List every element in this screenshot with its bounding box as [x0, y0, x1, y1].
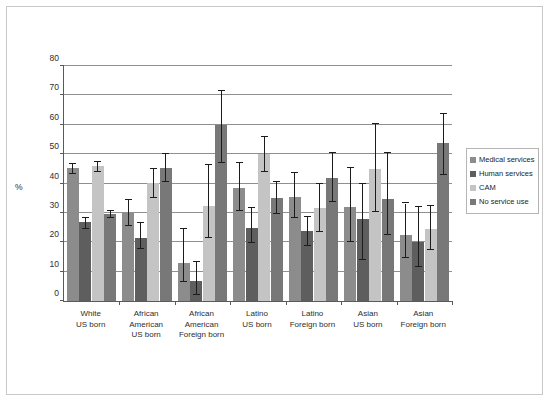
x-tick-mark — [119, 301, 120, 305]
x-tick-label: AsianUS born — [340, 309, 395, 330]
legend-item[interactable]: Medical services — [470, 153, 534, 167]
error-cap-high — [359, 183, 366, 184]
error-bar — [239, 163, 240, 211]
x-tick-label-line: Asian — [396, 309, 451, 320]
error-bar — [276, 182, 277, 214]
error-cap-high — [248, 207, 255, 208]
error-bar — [307, 217, 308, 246]
error-cap-low — [415, 266, 422, 267]
error-cap-high — [193, 261, 200, 262]
error-bar — [350, 168, 351, 242]
error-cap-low — [402, 257, 409, 258]
error-bar — [387, 153, 388, 234]
bar[interactable] — [122, 213, 134, 301]
bar-group — [341, 66, 396, 301]
error-cap-high — [69, 163, 76, 164]
error-cap-low — [316, 231, 323, 232]
error-cap-high — [107, 210, 114, 211]
bar[interactable] — [104, 214, 116, 301]
error-cap-high — [372, 123, 379, 124]
error-cap-high — [125, 199, 132, 200]
legend-item[interactable]: Human services — [470, 167, 534, 181]
legend-item[interactable]: No service use — [470, 195, 534, 209]
error-cap-high — [329, 152, 336, 153]
x-tick-label-line: US born — [229, 320, 284, 331]
x-tick-mark — [397, 301, 398, 305]
x-tick-label-line: Latino — [229, 309, 284, 320]
x-tick-label-line: Foreign born — [174, 330, 229, 341]
x-tick-label-line: US born — [63, 320, 118, 331]
error-bar — [264, 137, 265, 172]
error-cap-low — [236, 210, 243, 211]
error-cap-high — [384, 152, 391, 153]
x-tick-label-line: Foreign born — [396, 320, 451, 331]
bar[interactable] — [258, 154, 270, 301]
bar-group — [175, 66, 230, 301]
error-cap-low — [329, 201, 336, 202]
y-axis-label: % — [15, 182, 23, 192]
legend-item[interactable]: CAM — [470, 181, 534, 195]
error-bar — [153, 169, 154, 198]
chart-figure: % 01020304050607080 Medical servicesHuma… — [6, 6, 543, 395]
error-cap-high — [137, 222, 144, 223]
bar[interactable] — [92, 166, 104, 301]
error-cap-low — [162, 181, 169, 182]
x-tick-label-line: US born — [340, 320, 395, 331]
error-bar — [294, 173, 295, 218]
error-cap-low — [180, 281, 187, 282]
x-tick-mark — [230, 301, 231, 305]
legend-swatch — [470, 199, 476, 205]
legend-swatch — [470, 171, 476, 177]
error-cap-low — [304, 245, 311, 246]
error-bar — [418, 207, 419, 267]
bar[interactable] — [67, 168, 79, 301]
error-cap-low — [218, 162, 225, 163]
error-cap-high — [347, 167, 354, 168]
legend-swatch — [470, 157, 476, 163]
error-cap-high — [273, 181, 280, 182]
error-cap-low — [440, 174, 447, 175]
error-cap-high — [218, 90, 225, 91]
error-bar — [140, 223, 141, 249]
x-tick-label-line: White — [63, 309, 118, 320]
chart-legend: Medical servicesHuman servicesCAMNo serv… — [466, 148, 539, 214]
bar[interactable] — [160, 168, 172, 301]
x-tick-label-line: American — [174, 320, 229, 331]
error-cap-high — [162, 153, 169, 154]
bar[interactable] — [79, 222, 91, 301]
error-cap-low — [137, 248, 144, 249]
y-tick-label: 40 — [50, 171, 59, 180]
x-tick-mark — [452, 301, 453, 305]
bar[interactable] — [147, 183, 159, 301]
error-bar — [430, 206, 431, 251]
error-cap-low — [82, 228, 89, 229]
legend-label: CAM — [479, 184, 496, 192]
x-tick-label-line: American — [118, 320, 173, 331]
error-cap-low — [125, 225, 132, 226]
x-tick-label-line: African — [174, 309, 229, 320]
error-bar — [405, 204, 406, 259]
x-tick-label: LatinoForeign born — [285, 309, 340, 330]
bar-group — [230, 66, 285, 301]
error-cap-low — [273, 213, 280, 214]
error-bar — [251, 208, 252, 243]
x-tick-mark — [286, 301, 287, 305]
x-tick-label-line: US born — [118, 330, 173, 341]
y-tick-label: 80 — [50, 54, 59, 63]
error-cap-low — [205, 237, 212, 238]
error-cap-low — [94, 171, 101, 172]
y-tick-label: 0 — [54, 289, 59, 298]
x-tick-label: AfricanAmericanForeign born — [174, 309, 229, 341]
error-bar — [362, 184, 363, 261]
error-cap-low — [69, 173, 76, 174]
x-tick-mark — [341, 301, 342, 305]
error-cap-high — [150, 168, 157, 169]
x-tick-label: WhiteUS born — [63, 309, 118, 330]
y-tick-label: 70 — [50, 83, 59, 92]
error-cap-high — [440, 113, 447, 114]
error-cap-high — [205, 164, 212, 165]
x-tick-label: LatinoUS born — [229, 309, 284, 330]
error-cap-high — [180, 228, 187, 229]
legend-label: No service use — [479, 198, 529, 206]
error-bar — [208, 165, 209, 238]
